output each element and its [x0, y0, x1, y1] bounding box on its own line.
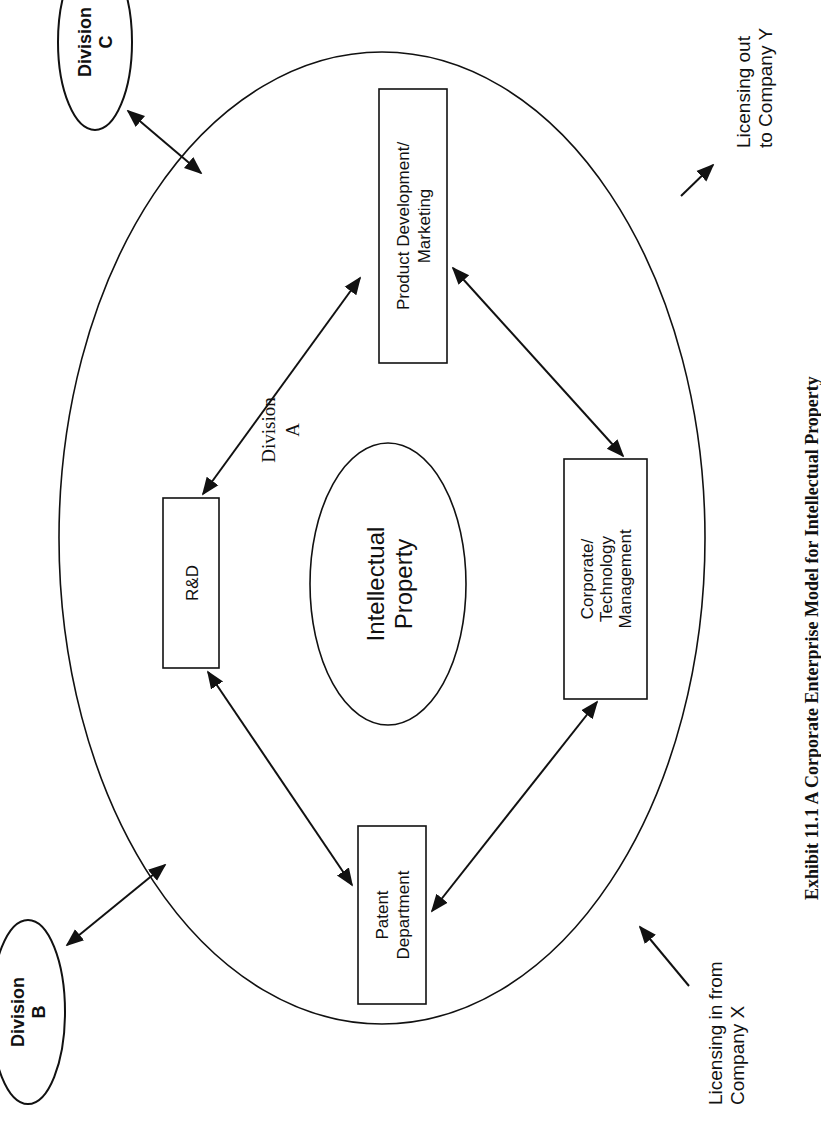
edge-licensing-in — [640, 927, 689, 986]
licensing-out-label: Licensing out to Company Y — [733, 28, 776, 148]
corporate-technology-label: Corporate/ Technology Management — [578, 529, 635, 629]
ip-enterprise-diagram: Division A Intellectual Property R&D Pro… — [0, 0, 821, 1138]
figure-caption: Exhibit 11.1 A Corporate Enterprise Mode… — [802, 376, 821, 900]
svg-text:C: C — [96, 36, 116, 49]
svg-text:Division: Division — [75, 7, 95, 77]
svg-text:Patent: Patent — [373, 890, 392, 939]
rd-label: R&D — [183, 565, 202, 601]
svg-text:Department: Department — [394, 870, 413, 959]
svg-text:Licensing out: Licensing out — [733, 35, 754, 148]
svg-text:Division: Division — [258, 397, 279, 463]
edge-divb-diva — [67, 865, 165, 945]
edge-divc-diva — [128, 111, 201, 173]
svg-text:Division: Division — [8, 977, 28, 1047]
svg-text:R&D: R&D — [183, 565, 202, 601]
svg-text:Product Development/: Product Development/ — [394, 142, 413, 310]
svg-text:A: A — [282, 423, 303, 437]
svg-text:to Company Y: to Company Y — [755, 28, 776, 148]
patent-department-box — [358, 826, 426, 1004]
product-development-box — [379, 89, 447, 363]
patent-department-label: Patent Department — [373, 870, 413, 959]
svg-text:Marketing: Marketing — [415, 189, 434, 264]
svg-text:Licensing in from: Licensing in from — [705, 961, 726, 1105]
division-c-ellipse — [58, 0, 132, 130]
svg-text:Property: Property — [390, 539, 417, 630]
edge-rd-product — [203, 278, 360, 494]
intellectual-property-label: Intellectual Property — [362, 527, 417, 642]
edge-patent-rd — [208, 672, 352, 885]
product-development-label: Product Development/ Marketing — [394, 142, 434, 310]
svg-text:Intellectual: Intellectual — [362, 527, 389, 642]
edge-corporate-patent — [432, 702, 597, 911]
edge-licensing-out — [681, 165, 713, 196]
svg-text:B: B — [29, 1006, 49, 1019]
svg-text:Exhibit 11.1 A Corporate Enter: Exhibit 11.1 A Corporate Enterprise Mode… — [802, 376, 821, 900]
svg-text:Corporate/: Corporate/ — [578, 539, 597, 620]
edge-product-corporate — [453, 268, 623, 456]
licensing-in-label: Licensing in from Company X — [705, 961, 748, 1105]
svg-text:Management: Management — [616, 529, 635, 629]
division-a-label: Division A — [258, 397, 303, 463]
svg-text:Company X: Company X — [727, 1005, 748, 1105]
svg-text:Technology: Technology — [597, 536, 616, 623]
